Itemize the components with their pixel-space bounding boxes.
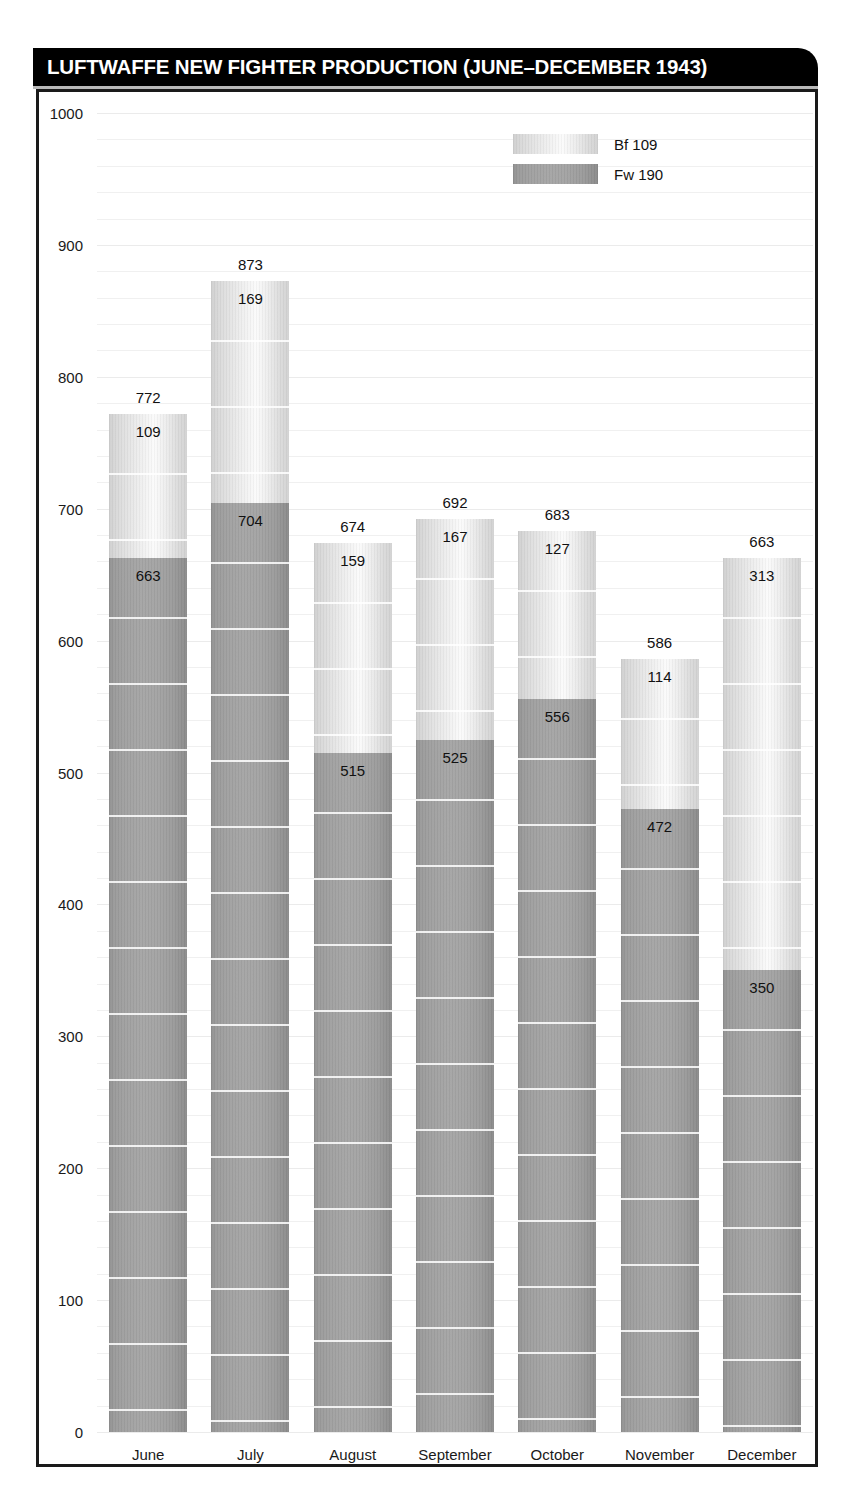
x-axis-tick-label: June bbox=[132, 1446, 165, 1463]
bar-bf109-label: 127 bbox=[545, 540, 570, 557]
legend-label: Bf 109 bbox=[614, 136, 657, 153]
legend-item[interactable]: Bf 109 bbox=[513, 131, 663, 157]
plot-area: 0100200300400500600700800900100077210966… bbox=[97, 113, 813, 1432]
gridline-minor bbox=[97, 350, 813, 351]
bar-group[interactable]: 683127556 bbox=[518, 531, 596, 1432]
gridline-minor bbox=[97, 271, 813, 272]
y-axis-tick-label: 300 bbox=[58, 1028, 83, 1045]
bar-segment-fw190[interactable] bbox=[314, 753, 392, 1432]
bar-total-label: 674 bbox=[340, 518, 365, 535]
gridline-minor bbox=[97, 456, 813, 457]
page-title: LUFTWAFFE NEW FIGHTER PRODUCTION (JUNE–D… bbox=[47, 55, 707, 79]
y-axis-tick-label: 900 bbox=[58, 236, 83, 253]
bar-total-label: 683 bbox=[545, 506, 570, 523]
bar-fw190-label: 663 bbox=[136, 567, 161, 584]
bar-group[interactable]: 586114472 bbox=[621, 659, 699, 1432]
y-axis-tick-label: 500 bbox=[58, 764, 83, 781]
bar-total-label: 873 bbox=[238, 256, 263, 273]
gridline-minor bbox=[97, 298, 813, 299]
gridline-minor bbox=[97, 430, 813, 431]
gridline-minor bbox=[97, 139, 813, 140]
bar-segment-bf109[interactable] bbox=[211, 281, 289, 504]
bar-group[interactable]: 663313350 bbox=[723, 558, 801, 1432]
y-axis-tick-label: 600 bbox=[58, 632, 83, 649]
bar-fw190-label: 704 bbox=[238, 512, 263, 529]
bar-segment-fw190[interactable] bbox=[723, 970, 801, 1432]
bar-bf109-label: 159 bbox=[340, 552, 365, 569]
x-axis-tick-label: September bbox=[418, 1446, 491, 1463]
gridline-minor bbox=[97, 482, 813, 483]
bar-group[interactable]: 873169704 bbox=[211, 281, 289, 1432]
bar-fw190-label: 472 bbox=[647, 818, 672, 835]
bar-bf109-label: 109 bbox=[136, 423, 161, 440]
x-axis-tick-label: November bbox=[625, 1446, 694, 1463]
x-axis-tick-label: August bbox=[329, 1446, 376, 1463]
gridline-minor bbox=[97, 324, 813, 325]
x-axis-tick-label: October bbox=[531, 1446, 584, 1463]
gridline bbox=[97, 377, 813, 378]
bar-segment-fw190[interactable] bbox=[109, 558, 187, 1432]
chart-figure: LUFTWAFFE NEW FIGHTER PRODUCTION (JUNE–D… bbox=[0, 0, 853, 1502]
bar-group[interactable]: 674159515 bbox=[314, 543, 392, 1432]
gridline-minor bbox=[97, 403, 813, 404]
bar-total-label: 772 bbox=[136, 389, 161, 406]
y-axis-tick-label: 100 bbox=[58, 1292, 83, 1309]
y-axis-tick-label: 0 bbox=[75, 1424, 83, 1441]
bar-fw190-label: 556 bbox=[545, 708, 570, 725]
y-axis-tick-label: 700 bbox=[58, 500, 83, 517]
gridline bbox=[97, 113, 813, 114]
bar-total-label: 586 bbox=[647, 634, 672, 651]
y-axis-tick-label: 800 bbox=[58, 368, 83, 385]
bar-bf109-label: 313 bbox=[749, 567, 774, 584]
legend-label: Fw 190 bbox=[614, 166, 663, 183]
bar-segment-bf109[interactable] bbox=[416, 519, 494, 739]
gridline bbox=[97, 1432, 813, 1433]
x-axis-tick-label: July bbox=[237, 1446, 264, 1463]
y-axis-tick-label: 200 bbox=[58, 1160, 83, 1177]
bar-bf109-label: 169 bbox=[238, 290, 263, 307]
bar-segment-fw190[interactable] bbox=[416, 740, 494, 1432]
bar-bf109-label: 114 bbox=[648, 668, 672, 685]
bar-fw190-label: 350 bbox=[749, 979, 774, 996]
bar-fw190-label: 525 bbox=[442, 749, 467, 766]
gridline bbox=[97, 245, 813, 246]
y-axis-tick-label: 400 bbox=[58, 896, 83, 913]
bar-bf109-label: 167 bbox=[442, 528, 467, 545]
chart-title-banner: LUFTWAFFE NEW FIGHTER PRODUCTION (JUNE–D… bbox=[33, 48, 818, 86]
chart-legend: Bf 109Fw 190 bbox=[513, 131, 663, 191]
bar-group[interactable]: 772109663 bbox=[109, 414, 187, 1432]
gridline-minor bbox=[97, 192, 813, 193]
bar-segment-bf109[interactable] bbox=[314, 543, 392, 753]
legend-item[interactable]: Fw 190 bbox=[513, 161, 663, 187]
bar-fw190-label: 515 bbox=[340, 762, 365, 779]
bar-total-label: 663 bbox=[749, 533, 774, 550]
y-axis-tick-label: 1000 bbox=[50, 105, 83, 122]
bar-group[interactable]: 692167525 bbox=[416, 519, 494, 1432]
dark-gradient-swatch bbox=[513, 164, 598, 184]
bar-segment-bf109[interactable] bbox=[723, 558, 801, 971]
light-gradient-swatch bbox=[513, 134, 598, 154]
bar-segment-fw190[interactable] bbox=[621, 809, 699, 1432]
x-axis-tick-label: December bbox=[727, 1446, 796, 1463]
gridline-minor bbox=[97, 166, 813, 167]
bar-total-label: 692 bbox=[442, 494, 467, 511]
bar-segment-fw190[interactable] bbox=[518, 699, 596, 1432]
gridline-minor bbox=[97, 219, 813, 220]
bar-segment-fw190[interactable] bbox=[211, 503, 289, 1432]
